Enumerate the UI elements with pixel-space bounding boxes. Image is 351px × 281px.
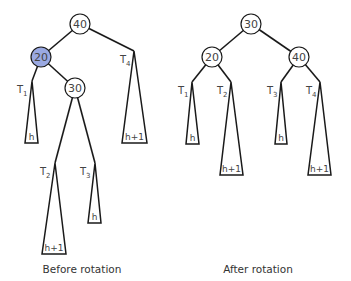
after-caption: After rotation xyxy=(223,263,293,275)
edge-30-t2 xyxy=(55,88,75,163)
node-30: 30 xyxy=(65,78,85,98)
height-label: h xyxy=(278,133,284,143)
subtree-label: T1 xyxy=(16,84,28,98)
node-label: 20 xyxy=(34,51,48,64)
height-label: h+1 xyxy=(222,164,241,174)
before-tree: T1 h T4 h+1 T2 h+1 T3 h 40 20 30 xyxy=(16,14,147,275)
node-label: 20 xyxy=(205,51,219,64)
node-label: 30 xyxy=(244,18,258,31)
subtree-label: T4 xyxy=(305,85,317,99)
before-caption: Before rotation xyxy=(43,263,122,275)
subtree-t3: T3 h xyxy=(79,163,101,223)
height-label: h xyxy=(92,212,98,222)
node-40: 40 xyxy=(70,14,90,34)
subtree-t1: T1 h xyxy=(16,81,38,143)
subtree-label: T3 xyxy=(266,85,278,99)
node-label: 30 xyxy=(68,82,82,95)
node-20: 20 xyxy=(202,47,222,67)
height-label: h+1 xyxy=(310,164,329,174)
node-30: 30 xyxy=(241,14,261,34)
subtree-label: T2 xyxy=(216,85,228,99)
subtree-t3: T3 h xyxy=(266,82,287,144)
subtree-label: T1 xyxy=(177,85,189,99)
subtree-t4: T4 h+1 xyxy=(119,51,147,143)
height-label: h+1 xyxy=(125,132,144,142)
after-tree: T1 h T2 h+1 T3 h T4 h+1 30 20 40 xyxy=(177,14,331,275)
node-20-highlighted: 20 xyxy=(31,47,51,67)
subtree-t2: T2 h+1 xyxy=(216,82,243,175)
height-label: h+1 xyxy=(45,243,64,253)
subtree-label: T2 xyxy=(39,166,51,180)
subtree-t1: T1 h xyxy=(177,82,199,144)
node-label: 40 xyxy=(292,51,306,64)
node-label: 40 xyxy=(73,18,87,31)
subtree-label: T3 xyxy=(79,166,91,180)
height-label: h xyxy=(29,132,35,142)
node-40: 40 xyxy=(289,47,309,67)
subtree-t2: T2 h+1 xyxy=(39,163,66,254)
height-label: h xyxy=(190,133,196,143)
subtree-label: T4 xyxy=(119,54,131,68)
rotation-diagram: T1 h T4 h+1 T2 h+1 T3 h 40 20 30 xyxy=(0,0,351,281)
subtree-t4: T4 h+1 xyxy=(305,82,331,175)
edge-30-t3 xyxy=(75,88,95,163)
